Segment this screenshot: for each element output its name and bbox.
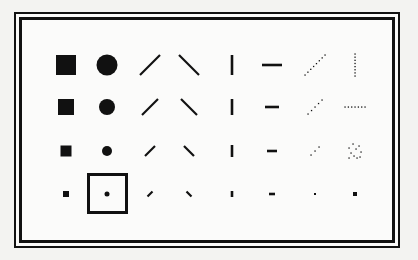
vertical-brush-icon xyxy=(212,45,252,85)
backslash-brush-icon xyxy=(169,45,209,85)
vertical-brush-large[interactable] xyxy=(212,45,252,85)
horizontal-brush-large[interactable] xyxy=(252,45,292,85)
round-brush-small[interactable] xyxy=(87,131,127,171)
horizontal-brush-tiny[interactable] xyxy=(252,174,292,214)
dotted-slash-brush-icon xyxy=(295,131,335,171)
round-brush-large[interactable] xyxy=(87,45,127,85)
square-brush-large[interactable] xyxy=(46,45,86,85)
dotted-vertical-brush-icon xyxy=(335,45,375,85)
vertical-brush-tiny[interactable] xyxy=(212,174,252,214)
dot-brush-small[interactable] xyxy=(335,174,375,214)
slash-brush-small[interactable] xyxy=(130,131,170,171)
horizontal-brush-icon xyxy=(252,131,292,171)
vertical-brush-icon xyxy=(212,87,252,127)
backslash-brush-large[interactable] xyxy=(169,45,209,85)
horizontal-brush-small[interactable] xyxy=(252,131,292,171)
backslash-brush-icon xyxy=(169,87,209,127)
spray-brush-icon xyxy=(335,131,375,171)
square-brush-tiny[interactable] xyxy=(46,174,86,214)
square-brush-icon xyxy=(46,87,86,127)
slash-brush-icon xyxy=(130,45,170,85)
dotted-slash-brush-icon xyxy=(295,45,335,85)
vertical-brush-medium[interactable] xyxy=(212,87,252,127)
horizontal-brush-icon xyxy=(252,45,292,85)
slash-brush-icon xyxy=(130,174,170,214)
horizontal-brush-medium[interactable] xyxy=(252,87,292,127)
circle-brush-icon xyxy=(87,87,127,127)
dotted-slash-brush-large[interactable] xyxy=(295,45,335,85)
square-brush-icon xyxy=(46,131,86,171)
slash-brush-icon xyxy=(130,87,170,127)
vertical-brush-small[interactable] xyxy=(212,131,252,171)
square-brush-icon xyxy=(46,45,86,85)
dot-brush-icon xyxy=(335,174,375,214)
backslash-brush-medium[interactable] xyxy=(169,87,209,127)
square-brush-icon xyxy=(46,174,86,214)
backslash-brush-icon xyxy=(169,131,209,171)
dot-brush-icon xyxy=(295,174,335,214)
dotted-slash-brush-medium[interactable] xyxy=(295,87,335,127)
horizontal-brush-icon xyxy=(252,174,292,214)
square-brush-small[interactable] xyxy=(46,131,86,171)
slash-brush-icon xyxy=(130,131,170,171)
slash-brush-medium[interactable] xyxy=(130,87,170,127)
vertical-brush-icon xyxy=(212,174,252,214)
selected-brush-highlight xyxy=(87,173,128,214)
square-brush-medium[interactable] xyxy=(46,87,86,127)
dotted-slash-brush-small[interactable] xyxy=(295,131,335,171)
dotted-horizontal-brush-medium[interactable] xyxy=(335,87,375,127)
slash-brush-large[interactable] xyxy=(130,45,170,85)
circle-brush-icon xyxy=(87,131,127,171)
dotted-horizontal-brush-icon xyxy=(335,87,375,127)
dotted-slash-brush-icon xyxy=(295,87,335,127)
vertical-brush-icon xyxy=(212,131,252,171)
backslash-brush-tiny[interactable] xyxy=(169,174,209,214)
round-brush-medium[interactable] xyxy=(87,87,127,127)
spray-brush[interactable] xyxy=(335,131,375,171)
circle-brush-icon xyxy=(87,45,127,85)
backslash-brush-small[interactable] xyxy=(169,131,209,171)
dotted-vertical-brush-large[interactable] xyxy=(335,45,375,85)
slash-brush-tiny[interactable] xyxy=(130,174,170,214)
dot-brush-tiny[interactable] xyxy=(295,174,335,214)
horizontal-brush-icon xyxy=(252,87,292,127)
backslash-brush-icon xyxy=(169,174,209,214)
